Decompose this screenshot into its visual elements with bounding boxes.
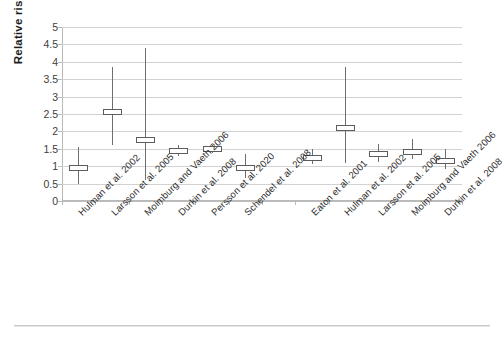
x-axis-label: Larsson et al. 2005 [376, 151, 443, 218]
x-axis-label: Durkin et al. 2008 [176, 156, 238, 218]
x-axis-label: Hulman et al. 2002 [342, 152, 408, 218]
x-axis-label: Durkin et al. 2008 [442, 156, 504, 218]
x-axis-label: Hulman et al. 2002 [76, 152, 142, 218]
x-axis-label: Schendel et al. 2008 [242, 147, 313, 218]
x-axis-category-labels: Hulman et al. 2002Larsson et al. 2005Moi… [0, 0, 504, 342]
relative-risk-forest-chart: Relative risk 54.543.532.521.510.50 Hulm… [0, 0, 504, 342]
footer-divider-shadow [14, 326, 490, 327]
x-axis-label: Eaton et al. 2001 [309, 157, 369, 217]
